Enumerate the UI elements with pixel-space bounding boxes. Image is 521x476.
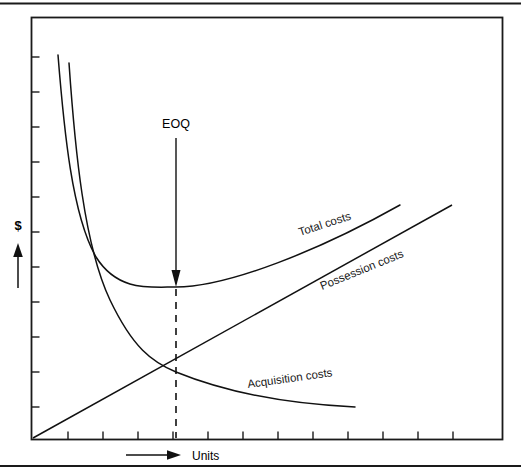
x-axis-label: Units (192, 449, 219, 463)
eoq-label: EOQ (162, 117, 190, 131)
eoq-chart-svg: EOQ Total costs Possession costs Acquisi… (0, 0, 521, 476)
y-axis-label: $ (14, 218, 22, 233)
figure-background (0, 0, 521, 476)
eoq-chart-figure: EOQ Total costs Possession costs Acquisi… (0, 0, 521, 476)
